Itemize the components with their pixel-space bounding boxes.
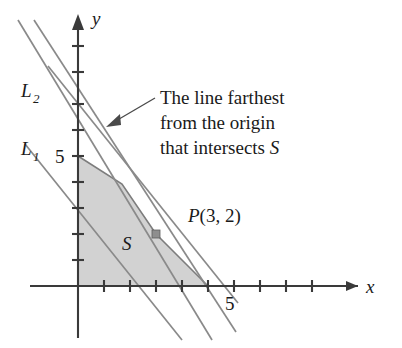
line-label-l1-letter: L [20, 138, 32, 159]
point-label-prefix: P [187, 205, 200, 226]
leader-arrowhead [106, 114, 121, 127]
region-label-s: S [122, 233, 132, 254]
point-label-coords: (3, 2) [200, 205, 241, 227]
annotation-line-1: The line farthest [160, 87, 285, 108]
annotation-line-3-italic: S [270, 137, 280, 158]
y-axis-arrowhead [72, 14, 84, 30]
figure-canvas: x y 5 5 L 2 L 1 S P(3, 2) The line farth… [0, 0, 402, 348]
annotation-line-3: that intersects S [160, 137, 280, 158]
point-p-marker [152, 230, 160, 238]
annotation-line-2: from the origin [160, 112, 276, 133]
annotation-text: The line farthest from the origin that i… [160, 87, 285, 158]
annotation-line-3-prefix: that intersects [160, 137, 270, 158]
line-label-l2-subscript: 2 [33, 91, 40, 106]
point-label: P(3, 2) [187, 205, 241, 227]
line-label-l1: L 1 [20, 138, 40, 164]
x-axis-label: x [365, 276, 375, 297]
line-label-l2: L 2 [20, 80, 40, 106]
x-axis-arrowhead [346, 281, 358, 291]
annotation-leader [106, 98, 155, 127]
y-axis-tick-label-5: 5 [55, 146, 65, 167]
y-axis-label: y [90, 8, 101, 29]
x-axis-tick-label-5: 5 [225, 293, 235, 314]
linear-programming-figure: x y 5 5 L 2 L 1 S P(3, 2) The line farth… [0, 0, 402, 348]
line-label-l2-letter: L [20, 80, 32, 101]
constraint-lines [18, 20, 238, 340]
line-label-l1-subscript: 1 [33, 149, 40, 164]
